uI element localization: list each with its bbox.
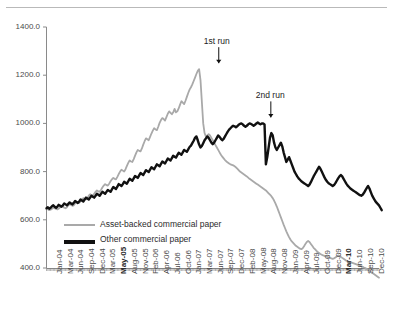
legend-swatch-other [64,240,95,244]
x-axis-tick-label: Aug-05 [130,248,139,274]
x-axis-tick-label: Apr-06 [162,250,171,274]
x-axis-tick-label: Jan-09 [291,250,300,274]
x-axis-tick-label: May-08 [259,247,268,274]
x-axis-tick-label: Dec-07 [237,248,246,274]
x-axis-tick-label: Apr-09 [302,250,311,274]
x-axis-tick-label: Dec-09 [334,248,343,274]
y-axis-tick-label: 1000.0 [0,118,40,127]
x-axis-tick-label: Feb-06 [151,249,160,274]
x-axis-tick-label: Dec-10 [377,248,386,274]
x-axis-tick-label: Dec-04 [98,248,107,274]
x-axis-tick-label: Nov-08 [280,248,289,274]
y-axis-tick-label: 800.0 [0,167,40,176]
x-axis-tick-label: Feb-08 [248,249,257,274]
chart-annotation-label: 1st run [204,36,230,46]
chart-annotation-arrows [216,47,273,117]
x-axis-tick-label: Oct-06 [184,250,193,274]
chart-series-layer [47,69,382,277]
x-axis-tick-label: Mar-05 [108,249,117,274]
y-axis-ticks [43,27,47,268]
y-axis-tick-label: 400.0 [0,263,40,272]
y-axis-tick-label: 1200.0 [0,70,40,79]
x-axis-tick-label: Sep-10 [366,248,375,274]
x-axis-tick-label: Sep-04 [87,248,96,274]
x-axis-tick-label: Aug-08 [269,248,278,274]
y-axis-tick-label: 1400.0 [0,22,40,31]
x-axis-tick-label: Jul-09 [312,252,321,274]
legend-swatch-asset-backed [64,224,95,226]
x-axis-tick-label: Mar-04 [66,249,75,274]
x-axis-tick-label: Jun-10 [355,250,364,274]
chart-figure: 1400.01200.01000.0800.0600.0400.0 Jan-04… [0,0,393,326]
x-axis-tick-label: Jan-07 [194,250,203,274]
x-axis-tick-label: Sep-07 [226,248,235,274]
y-axis-tick-label: 600.0 [0,215,40,224]
x-axis-tick-label: Jan-04 [55,250,64,274]
chart-plot-area [0,0,393,326]
legend-label-asset-backed: Asset-backed commercial paper [100,219,221,229]
legend-label-other: Other commercial paper [100,234,191,244]
chart-line-asset-backed-commercial-paper [47,69,380,277]
x-axis-tick-label: Jun-07 [216,250,225,274]
x-axis-tick-label: May-05 [119,247,128,274]
chart-annotation-label: 2nd run [256,90,285,100]
x-axis-tick-label: Jul-06 [173,252,182,274]
x-axis-tick-label: Nov-05 [141,248,150,274]
chart-axes [47,27,380,269]
x-axis-tick-label: Mar-10 [344,248,353,274]
chart-line-other-commercial-paper [47,122,382,210]
x-axis-tick-label: Oct-09 [323,250,332,274]
x-axis-tick-label: Mar-07 [205,249,214,274]
x-axis-tick-label: Jun-04 [76,250,85,274]
